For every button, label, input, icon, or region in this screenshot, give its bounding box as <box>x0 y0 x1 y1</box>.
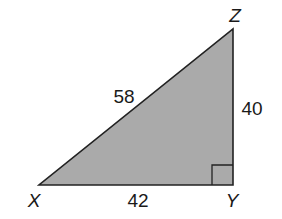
vertex-label-z: Z <box>229 6 241 25</box>
side-label-xy: 42 <box>127 191 148 210</box>
triangle-xyz <box>39 29 233 185</box>
side-label-xz: 58 <box>113 87 134 106</box>
triangle-figure <box>0 0 282 219</box>
vertex-label-x: X <box>28 191 41 210</box>
vertex-label-y: Y <box>226 191 239 210</box>
side-label-zy: 40 <box>241 99 262 118</box>
